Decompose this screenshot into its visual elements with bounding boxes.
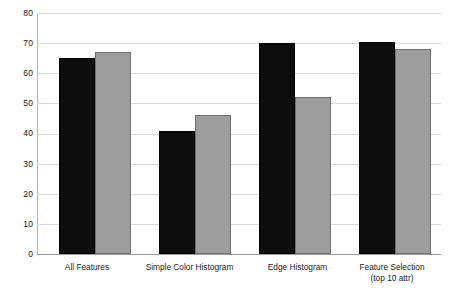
- bar-all-features-series-2: [95, 52, 131, 254]
- x-label-feature-selection: Feature Selection (top 10 attr): [330, 262, 454, 284]
- y-tick-label: 40: [5, 129, 33, 138]
- x-label-simple-color-histogram: Simple Color Histogram: [122, 262, 257, 273]
- bar-simple-color-histogram-series-1: [159, 131, 195, 255]
- bar-edge-histogram-series-1: [259, 43, 295, 254]
- plot-area: [37, 13, 441, 254]
- y-tick-label: 50: [5, 99, 33, 108]
- y-tick-label: 20: [5, 190, 33, 199]
- y-tick-label: 0: [5, 250, 33, 259]
- bar-edge-histogram-series-2: [295, 97, 331, 254]
- x-label-all-features: All Features: [37, 262, 137, 273]
- y-tick-label: 10: [5, 220, 33, 229]
- bar-chart: 80 70 60 50 40 30 20 10 0 Al: [0, 0, 454, 295]
- bar-all-features-series-1: [59, 58, 95, 254]
- x-axis-baseline: [37, 254, 441, 255]
- grid-line-80: [37, 13, 441, 14]
- y-tick-label: 70: [5, 39, 33, 48]
- y-tick-label: 60: [5, 69, 33, 78]
- y-tick-label: 30: [5, 160, 33, 169]
- bar-feature-selection-series-2: [395, 49, 431, 254]
- bar-feature-selection-series-1: [359, 42, 395, 254]
- y-tick-label: 80: [5, 9, 33, 18]
- y-axis-tick-labels: 80 70 60 50 40 30 20 10 0: [0, 0, 33, 295]
- x-label-edge-histogram: Edge Histogram: [240, 262, 355, 273]
- bar-simple-color-histogram-series-2: [195, 115, 231, 254]
